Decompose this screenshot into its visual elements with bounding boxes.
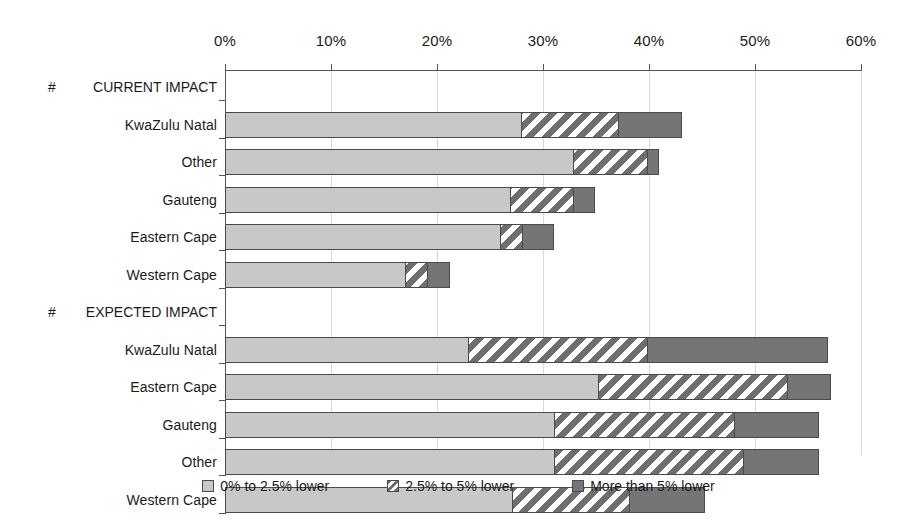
legend-swatch-icon [202,480,214,492]
bar-segment[interactable] [225,449,554,475]
group-heading-row: #CURRENT IMPACT [0,74,225,100]
x-axis-tick-label: 20% [422,32,453,49]
category-label: KwaZulu Natal [125,117,217,133]
x-axis-tick-label: 60% [846,32,877,49]
gridline [861,70,862,455]
table-row[interactable] [225,374,831,400]
y-axis-tick [219,250,226,251]
legend-swatch-icon [387,480,399,492]
y-axis-tick [219,363,226,364]
y-axis-tick [219,475,226,476]
bar-segment[interactable] [647,337,828,363]
x-axis-tick-label: 40% [634,32,665,49]
legend-swatch-icon [572,480,584,492]
bar-segment[interactable] [598,374,787,400]
group-heading-marker: # [48,304,56,320]
x-axis-tick [755,64,756,71]
bar-segment[interactable] [573,149,647,175]
y-axis-tick [219,400,226,401]
bar-segment[interactable] [405,262,427,288]
y-axis-tick [219,438,226,439]
group-heading-row: #EXPECTED IMPACT [0,299,225,325]
bar-segment[interactable] [618,112,682,138]
x-axis-tick [543,64,544,71]
category-label: Other [181,454,217,470]
table-row[interactable] [225,449,819,475]
x-axis-tick [225,64,226,71]
y-axis-tick [219,513,226,514]
table-row[interactable] [225,187,595,213]
bar-segment[interactable] [225,337,468,363]
bar-segment[interactable] [554,449,744,475]
legend-label: 0% to 2.5% lower [220,478,329,494]
bar-segment[interactable] [787,374,832,400]
category-label: Gauteng [163,417,217,433]
table-row[interactable] [225,412,819,438]
y-axis-tick [219,288,226,289]
table-row[interactable] [225,337,828,363]
x-axis-tick [437,64,438,71]
category-label: Gauteng [163,192,217,208]
y-axis-tick [219,138,226,139]
table-row[interactable] [225,262,450,288]
x-axis-tick-label: 10% [316,32,347,49]
y-axis-tick [219,100,226,101]
bar-segment[interactable] [225,187,510,213]
group-heading-label: CURRENT IMPACT [93,79,217,95]
group-heading-marker: # [48,79,56,95]
x-axis-tick-label: 50% [740,32,771,49]
category-label: KwaZulu Natal [125,342,217,358]
x-axis-tick-label: 30% [528,32,559,49]
x-axis-tick [331,64,332,71]
legend-item[interactable]: 2.5% to 5% lower [387,478,514,494]
bar-segment[interactable] [647,149,659,175]
category-label: Western Cape [127,267,217,283]
legend-label: More than 5% lower [590,478,715,494]
table-row[interactable] [225,224,554,250]
bar-segment[interactable] [468,337,647,363]
x-axis-tick [861,64,862,71]
bar-segment[interactable] [734,412,819,438]
group-heading-label: EXPECTED IMPACT [86,304,217,320]
y-axis-tick [219,175,226,176]
bar-segment[interactable] [225,262,405,288]
bar-segment[interactable] [573,187,595,213]
category-label: Eastern Cape [130,379,217,395]
bar-segment[interactable] [225,112,521,138]
chart-legend: 0% to 2.5% lower2.5% to 5% lowerMore tha… [0,478,917,494]
bar-segment[interactable] [500,224,522,250]
category-label: Eastern Cape [130,229,217,245]
legend-item[interactable]: 0% to 2.5% lower [202,478,329,494]
bar-segment[interactable] [225,224,500,250]
bar-segment[interactable] [225,149,573,175]
category-label: Other [181,154,217,170]
table-row[interactable] [225,149,659,175]
bar-segment[interactable] [510,187,573,213]
y-axis-tick [219,325,226,326]
bar-segment[interactable] [522,224,554,250]
x-axis-tick-label: 0% [214,32,236,49]
legend-label: 2.5% to 5% lower [405,478,514,494]
legend-item[interactable]: More than 5% lower [572,478,715,494]
bar-segment[interactable] [225,374,598,400]
bar-segment[interactable] [554,412,734,438]
x-axis-tick [649,64,650,71]
y-axis-tick [219,213,226,214]
table-row[interactable] [225,112,682,138]
bar-segment[interactable] [743,449,818,475]
bar-segment[interactable] [225,412,554,438]
stacked-bar-chart: 0%10%20%30%40%50%60% #CURRENT IMPACTKwaZ… [0,0,917,530]
bar-segment[interactable] [521,112,619,138]
bar-segment[interactable] [427,262,449,288]
